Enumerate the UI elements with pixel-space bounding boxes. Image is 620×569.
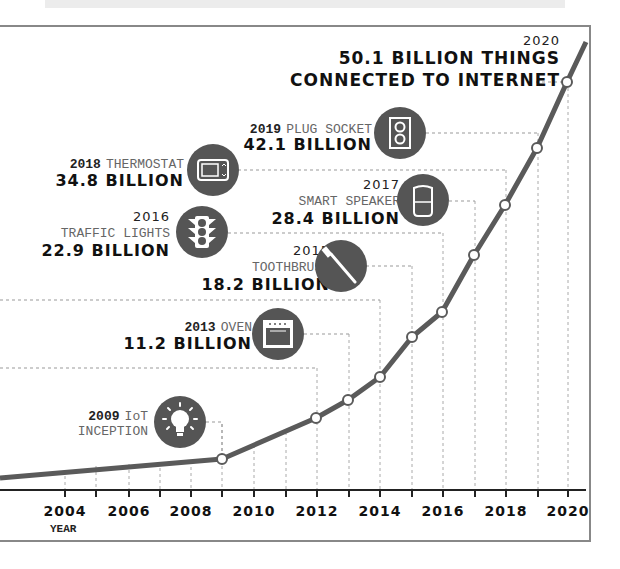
x-tick-label: 2020 [547, 503, 590, 519]
annotation-2013-value: 11.2 BILLION [123, 336, 252, 352]
annotation-2018-name: THERMOSTAT [106, 157, 184, 172]
annotation-2013-year: 2013 [184, 320, 215, 335]
x-tick-label: 2006 [108, 503, 151, 519]
x-tick-label: 2018 [485, 503, 528, 519]
x-tick-label: 2008 [170, 503, 213, 519]
toothbrush-icon [315, 240, 367, 292]
x-axis-ticks [65, 490, 568, 497]
oven-icon [252, 308, 304, 360]
plug-socket-icon [374, 107, 426, 159]
annotation-2017-value: 28.4 BILLION [271, 211, 400, 227]
annotation-2017-year: 2017 [363, 178, 400, 191]
annotation-2009-year: 2009 [88, 409, 119, 424]
annotation-2018-year: 2018 [70, 157, 101, 172]
annotation-2015-value: 18.2 BILLION [201, 277, 330, 293]
annotation-2013-header: 2013 OVEN [184, 318, 252, 334]
annotation-2016-year: 2016 [133, 210, 170, 223]
annotation-2019-header: 2019 PLUG SOCKET [250, 120, 372, 136]
x-tick-label: 2016 [422, 503, 465, 519]
annotation-2016-name: TRAFFIC LIGHTS [61, 227, 170, 240]
x-axis-label: YEAR [50, 523, 76, 535]
annotation-2009-header: 2009 IoT [88, 407, 148, 423]
annotation-2017-name: SMART SPEAKER [299, 195, 400, 208]
thermostat-icon [187, 144, 239, 196]
annotation-2020-year: 2020 [523, 34, 560, 47]
annotation-2019-value: 42.1 BILLION [243, 137, 372, 153]
chart-title-line1: 50.1 BILLION THINGS [339, 50, 560, 67]
annotation-2018-value: 34.8 BILLION [55, 173, 184, 189]
chart-title-line2: CONNECTED TO INTERNET [290, 72, 560, 89]
lightbulb-icon [154, 396, 206, 448]
annotation-2013-name: OVEN [221, 320, 252, 335]
annotation-2016-value: 22.9 BILLION [41, 243, 170, 259]
x-tick-label: 2010 [233, 503, 276, 519]
annotation-2018-header: 2018 THERMOSTAT [70, 155, 184, 171]
annotation-2009-name-b: INCEPTION [78, 425, 148, 438]
traffic-light-icon [176, 206, 228, 258]
annotation-2009-name-a: IoT [125, 409, 148, 424]
x-tick-label: 2014 [359, 503, 402, 519]
x-tick-label: 2012 [296, 503, 339, 519]
smart-speaker-icon [397, 174, 449, 226]
x-tick-label: 2004 [44, 503, 87, 519]
